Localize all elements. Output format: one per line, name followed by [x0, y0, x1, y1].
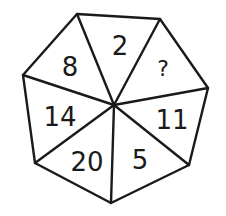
- segment-top-label: 2: [112, 31, 129, 61]
- segment-right-label: 11: [155, 105, 188, 135]
- spoke-top-left: [77, 14, 114, 105]
- spoke-bottom: [111, 105, 114, 203]
- segment-left-label: 14: [43, 102, 76, 132]
- segment-top-right-label: ?: [157, 56, 169, 81]
- spoke-right: [114, 88, 208, 105]
- segment-top-left-label: 8: [62, 52, 79, 82]
- segment-bottom-left-label: 20: [70, 147, 103, 177]
- heptagon-number-puzzle: 2 ? 11 5 20 14 8: [0, 0, 226, 216]
- segment-bottom-right-label: 5: [132, 145, 149, 175]
